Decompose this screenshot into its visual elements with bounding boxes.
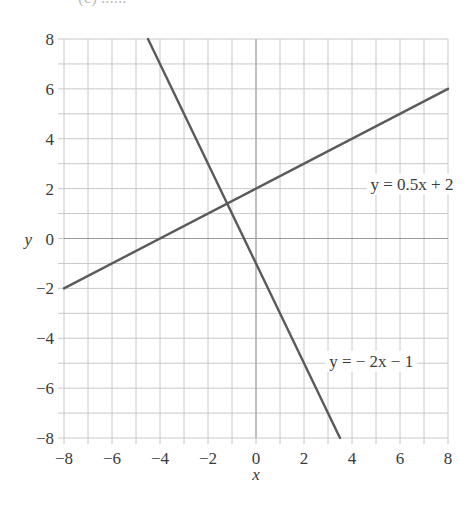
y-tick-label: −8 xyxy=(36,429,54,448)
y-tick-label: −4 xyxy=(36,329,55,348)
line-chart: −8−6−4−202468−8−6−4−224680 y = 0.5x + 2y… xyxy=(0,0,472,521)
x-tick-label: −6 xyxy=(103,449,121,468)
y-tick-label: 4 xyxy=(46,130,55,149)
x-tick-label: −4 xyxy=(151,449,170,468)
y-tick-label: 6 xyxy=(46,80,55,99)
grid-lines xyxy=(58,39,448,444)
y-tick-label: 2 xyxy=(46,180,55,199)
tick-labels: −8−6−4−202468−8−6−4−224680 xyxy=(36,30,452,468)
x-tick-label: 2 xyxy=(300,449,309,468)
line-label: y = 0.5x + 2 xyxy=(371,175,454,194)
y-tick-label: −6 xyxy=(36,379,54,398)
x-axis-label: x xyxy=(251,465,260,484)
x-tick-label: −2 xyxy=(199,449,217,468)
y-tick-label: 8 xyxy=(46,30,55,49)
line-label: y = − 2x − 1 xyxy=(329,352,413,371)
x-tick-label: 4 xyxy=(348,449,357,468)
x-tick-label: −8 xyxy=(55,449,73,468)
x-tick-label: 6 xyxy=(396,449,405,468)
line-labels: y = 0.5x + 2y = − 2x − 1 xyxy=(325,174,457,372)
y-tick-label: −2 xyxy=(36,279,54,298)
axes xyxy=(64,39,448,438)
y-axis-label: y xyxy=(22,230,32,249)
x-tick-label: 8 xyxy=(444,449,453,468)
y-tick-label-zero: 0 xyxy=(46,230,55,249)
